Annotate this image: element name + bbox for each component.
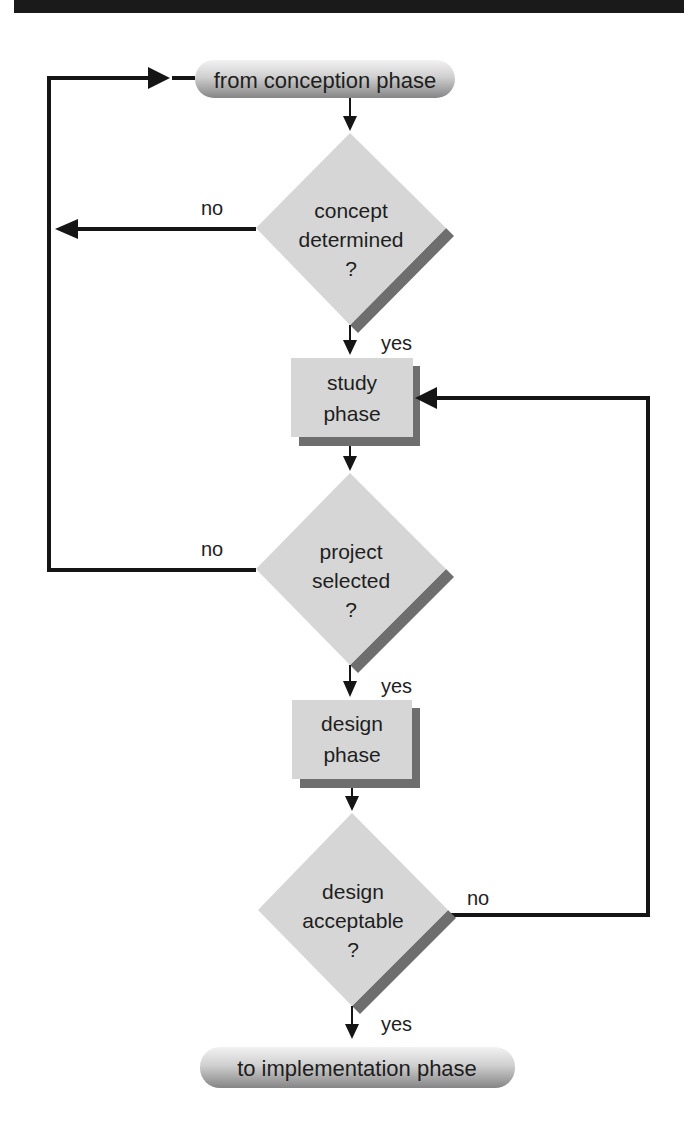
end-label: to implementation phase — [237, 1056, 477, 1081]
connector-design-to-decision3 — [345, 788, 359, 811]
connector-decision1-yes: yes — [343, 325, 412, 355]
arrowhead-right-icon — [148, 67, 170, 89]
decision3-no-label: no — [467, 887, 489, 909]
decision1-line3: ? — [345, 257, 357, 280]
decision-project-selected: project selected ? — [256, 473, 454, 673]
decision3-line3: ? — [347, 938, 359, 961]
decision2-line2: selected — [312, 569, 390, 592]
start-terminator: from conception phase — [195, 60, 455, 98]
decision2-line1: project — [319, 540, 382, 563]
connector-study-to-decision2 — [343, 446, 357, 471]
design-line1: design — [321, 712, 383, 735]
decision-concept-determined: concept determined ? — [256, 133, 454, 333]
flowchart: from conception phase concept determined… — [0, 0, 698, 1124]
connector-decision2-no-loop: no — [49, 67, 256, 570]
study-line1: study — [327, 371, 378, 394]
process-study-phase: study phase — [291, 358, 420, 446]
design-line2: phase — [323, 743, 380, 766]
arrowhead-down-icon — [343, 681, 357, 697]
decision2-line3: ? — [345, 598, 357, 621]
arrowhead-down-icon — [345, 1024, 359, 1039]
connector-decision3-no-loop: no — [415, 387, 648, 915]
decision2-no-label: no — [201, 538, 223, 560]
arrowhead-down-icon — [343, 116, 357, 131]
connector-start-to-decision1 — [343, 98, 357, 131]
connector-decision2-yes: yes — [343, 665, 412, 697]
arrowhead-down-icon — [345, 796, 359, 811]
study-line2: phase — [323, 402, 380, 425]
arrowhead-down-icon — [343, 456, 357, 471]
arrowhead-left-icon — [55, 219, 78, 239]
decision2-yes-label: yes — [381, 675, 412, 697]
process-design-phase: design phase — [292, 700, 420, 788]
arrowhead-down-icon — [343, 340, 357, 355]
decision3-line2: acceptable — [302, 909, 404, 932]
decision3-line1: design — [322, 880, 384, 903]
decision1-no-label: no — [201, 197, 223, 219]
connector-decision3-yes: yes — [345, 1006, 412, 1039]
decision-design-acceptable: design acceptable ? — [258, 813, 456, 1014]
connector-decision1-no: no — [55, 197, 256, 239]
decision1-line1: concept — [314, 199, 388, 222]
end-terminator: to implementation phase — [200, 1047, 515, 1088]
decision3-yes-label: yes — [381, 1013, 412, 1035]
decision1-line2: determined — [298, 228, 403, 251]
decision1-yes-label: yes — [381, 332, 412, 354]
start-label: from conception phase — [214, 68, 437, 93]
